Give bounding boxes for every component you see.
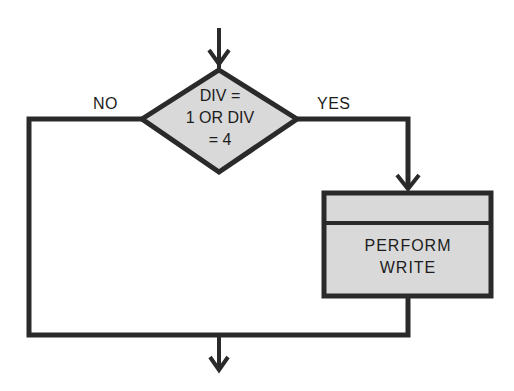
- process-line-1: PERFORM: [326, 235, 490, 257]
- process-line-2: WRITE: [326, 257, 490, 279]
- flowchart-canvas: [0, 0, 514, 391]
- exit-arrow: [210, 335, 228, 370]
- decision-line-3: = 4: [152, 129, 288, 151]
- yes-branch-label: YES: [317, 95, 351, 113]
- decision-line-2: 1 OR DIV: [152, 107, 288, 129]
- process-label: PERFORM WRITE: [326, 235, 490, 279]
- decision-condition: DIV = 1 OR DIV = 4: [152, 85, 288, 151]
- entry-arrow: [209, 28, 229, 68]
- decision-line-1: DIV =: [152, 85, 288, 107]
- no-branch-label: NO: [93, 95, 118, 113]
- process-exit-connector: [219, 296, 408, 335]
- yes-branch-connector: [297, 119, 419, 189]
